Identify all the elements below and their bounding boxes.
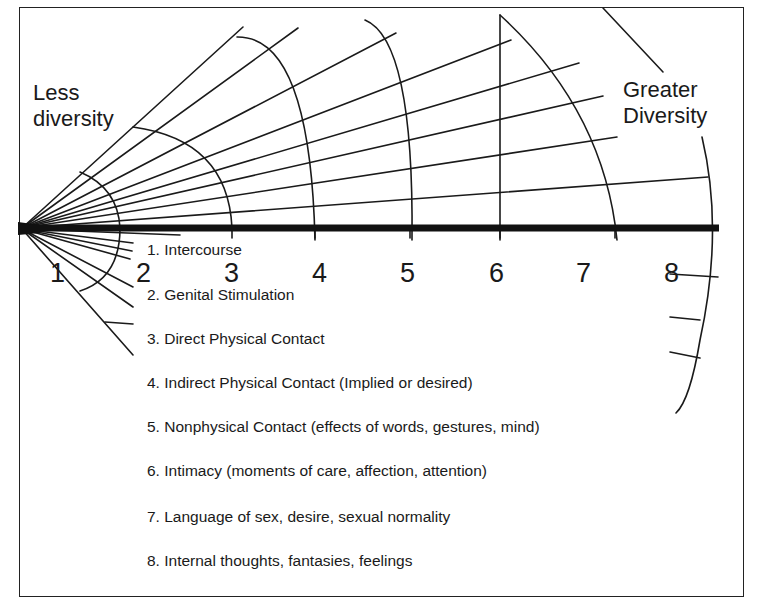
legend-item-2: 2. Genital Stimulation <box>147 287 294 303</box>
scale-number-6: 6 <box>489 260 504 287</box>
legend-item-1: 1. Intercourse <box>147 242 242 258</box>
diversity-arcs <box>80 8 713 413</box>
legend-item-8: 8. Internal thoughts, fantasies, feeling… <box>147 553 412 569</box>
scale-number-1: 1 <box>50 260 65 287</box>
scale-number-2: 2 <box>136 260 151 287</box>
upper-rays <box>22 27 708 228</box>
scale-number-8: 8 <box>664 260 679 287</box>
legend-item-4: 4. Indirect Physical Contact (Implied or… <box>147 375 473 391</box>
less-diversity-label: Less diversity <box>33 80 114 132</box>
scale-number-5: 5 <box>400 260 415 287</box>
legend-item-7: 7. Language of sex, desire, sexual norma… <box>147 509 450 525</box>
legend-item-6: 6. Intimacy (moments of care, affection,… <box>147 463 487 479</box>
scale-number-7: 7 <box>576 260 591 287</box>
greater-diversity-label: Greater Diversity <box>623 77 707 129</box>
scale-number-3: 3 <box>224 260 239 287</box>
legend-item-3: 3. Direct Physical Contact <box>147 331 324 347</box>
scale-number-4: 4 <box>312 260 327 287</box>
legend-item-5: 5. Nonphysical Contact (effects of words… <box>147 419 540 435</box>
